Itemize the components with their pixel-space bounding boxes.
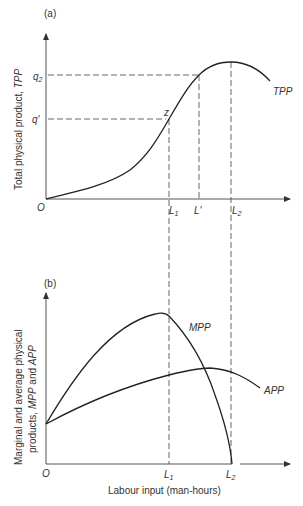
L2-label-b: L2 (226, 469, 236, 481)
Lprime-label: L' (194, 205, 203, 216)
panel-b-y-label-line1: Marginal and average physical (13, 329, 24, 465)
panel-a: (a) Total physical product, TPP q2 q' z … (13, 8, 293, 464)
q2-label: q2 (33, 71, 43, 83)
mpp-curve (46, 313, 232, 464)
L1-label-a: L1 (169, 205, 179, 217)
panel-a-tag: (a) (44, 8, 56, 19)
mpp-label: MPP (189, 322, 211, 333)
tpp-curve (46, 62, 270, 199)
app-label: APP (263, 385, 284, 396)
panel-b: (b) Marginal and average physical produc… (13, 278, 290, 496)
L1-label-b: L1 (164, 469, 174, 481)
panel-b-tag: (b) (44, 278, 56, 289)
L2-label-a: L2 (232, 205, 242, 217)
qprime-label: q' (32, 114, 41, 125)
tpp-label: TPP (273, 86, 293, 97)
panel-a-origin: O (37, 202, 45, 213)
app-curve (46, 368, 260, 424)
x-axis-label: Labour input (man-hours) (108, 485, 221, 496)
panel-a-y-label: Total physical product, TPP (13, 69, 24, 190)
panel-b-y-label-line2: products, MPP and APP (27, 345, 38, 453)
panel-b-origin: O (42, 468, 50, 479)
figure: (a) Total physical product, TPP q2 q' z … (0, 0, 303, 506)
z-label: z (163, 107, 169, 118)
